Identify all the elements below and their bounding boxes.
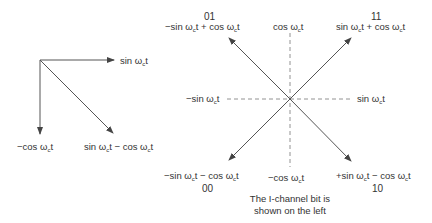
label-neg-cos: −cos ωct [17,141,53,152]
resultant-vector-arrow [40,60,113,133]
constellation-axes [227,33,353,167]
arrow-10 [290,99,351,161]
arrow-00 [229,99,290,160]
axis-label-right: sin ωct [357,93,385,104]
caption-line-2: shown on the left [240,205,340,217]
left-vector-diagram [40,60,114,134]
code-00: 00 [202,183,213,194]
phasor-diagram-canvas [0,0,432,223]
caption-line-1: The I-channel bit is [240,193,340,205]
label-sin: sin ωct [120,55,148,66]
caption: The I-channel bit is shown on the left [240,193,340,217]
arrow-01 [229,38,290,99]
axis-label-left: −sin ωct [186,93,219,104]
point-label-00: −sin ωct − cos ωct [164,170,239,181]
point-label-11: sin ωct + cos ωct [336,21,405,32]
label-resultant: sin ωct − cos ωct [84,141,153,152]
axis-label-bottom: −cos ωct [268,172,304,183]
point-label-10: +sin ωct − cos ωct [336,170,411,181]
code-10: 10 [372,183,383,194]
axis-label-top: cos ωct [273,21,304,32]
point-label-01: −sin ωct + cos ωct [165,21,240,32]
arrow-11 [290,38,351,99]
